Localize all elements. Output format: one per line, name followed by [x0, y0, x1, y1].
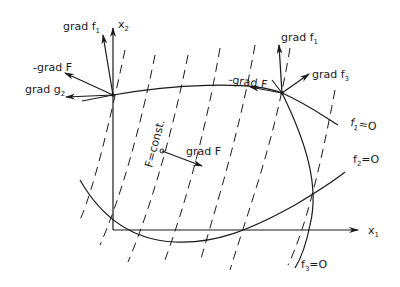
f3-curve-label: f3=O: [301, 258, 328, 273]
left-grad-f1-label: grad f1: [63, 20, 100, 35]
left-point-marker: [111, 93, 115, 97]
curve-f1: [113, 85, 338, 125]
F-const-label: F=const.: [142, 118, 167, 169]
f2-curve-label: f2=O: [353, 153, 380, 168]
right-neg-grad-F-label: -grad F: [228, 73, 268, 91]
left-grad-g2-label: grad g2: [25, 83, 65, 98]
f1-curve-label: f1=O: [349, 116, 378, 135]
diagram-svg: x2 x1 grad f1 -grad F grad g2 grad f1 gr…: [0, 0, 400, 287]
x2-axis-label: x2: [118, 18, 129, 33]
constraint-curves: [80, 85, 345, 268]
right-point-marker: [280, 91, 284, 95]
right-grad-f3-label: grad f3: [312, 68, 349, 83]
right-grad-f1-label: grad f1: [281, 31, 318, 46]
grad-F-label: grad F: [186, 145, 221, 158]
left-neg-grad-F-label: -grad F: [33, 61, 72, 74]
iso-line-1: [80, 50, 125, 220]
left-point-vectors: [65, 35, 113, 101]
diagram-canvas: x2 x1 grad f1 -grad F grad g2 grad f1 gr…: [0, 0, 400, 287]
iso-line-3: [128, 55, 188, 262]
x1-axis-label: x1: [368, 224, 379, 239]
curve-f2: [80, 172, 345, 242]
